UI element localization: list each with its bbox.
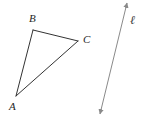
vertex-label-A: A (9, 101, 16, 112)
line-l-segment (100, 3, 127, 114)
edge-BC (33, 30, 78, 41)
vertex-label-C: C (83, 34, 90, 45)
edge-AB (16, 30, 33, 96)
edge-CA (16, 41, 78, 96)
figure-canvas (0, 0, 145, 122)
geometry-figure: B C A ℓ (0, 0, 145, 122)
line-label-l: ℓ (130, 14, 135, 26)
vertex-label-B: B (29, 13, 36, 24)
triangle-ABC (16, 30, 78, 96)
line-l (100, 3, 127, 114)
